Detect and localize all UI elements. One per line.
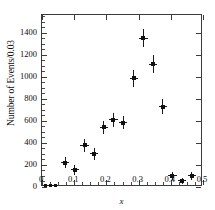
y-axis-minor-tick: [42, 110, 45, 111]
y-axis-tick: [42, 99, 47, 100]
data-point-marker: [141, 36, 145, 40]
y-axis-tick-right: [196, 165, 201, 166]
y-axis-tick: [42, 121, 47, 122]
y-axis-minor-tick: [42, 154, 45, 155]
y-axis-minor-tick: [42, 88, 45, 89]
y-axis-minor-tick: [42, 60, 45, 61]
x-axis-tick-top: [106, 15, 107, 20]
y-axis-minor-tick: [42, 126, 45, 127]
y-axis-minor-tick: [42, 66, 45, 67]
y-axis-minor-tick: [42, 27, 45, 28]
y-axis-minor-tick: [42, 132, 45, 133]
data-point-marker: [121, 121, 125, 125]
y-axis-tick-label: 200: [5, 160, 37, 169]
y-axis-minor-tick: [42, 148, 45, 149]
y-axis-minor-tick: [42, 104, 45, 105]
y-axis-minor-tick: [42, 170, 45, 171]
y-axis-tick-label: 1000: [5, 72, 37, 81]
y-axis-minor-tick: [42, 93, 45, 94]
plot-area: [41, 14, 202, 186]
y-axis-minor-tick: [42, 137, 45, 138]
data-point-marker: [151, 62, 155, 66]
y-axis-minor-tick: [42, 38, 45, 39]
y-axis-tick: [42, 187, 47, 188]
x-axis-tick-label: 0: [27, 175, 55, 184]
x-axis-tick-label: 0.3: [124, 175, 152, 184]
y-axis-tick-label: 400: [5, 138, 37, 147]
y-axis-tick-label: 1400: [5, 28, 37, 37]
y-axis-tick: [42, 55, 47, 56]
y-axis-minor-tick: [42, 44, 45, 45]
y-axis-tick-right: [196, 99, 201, 100]
x-axis-tick-label: 0.1: [59, 175, 87, 184]
data-point-marker: [73, 168, 77, 172]
y-axis-tick-right: [196, 55, 201, 56]
x-axis-tick-top: [203, 15, 204, 20]
data-point-marker: [111, 118, 115, 122]
x-axis-tick-top: [139, 15, 140, 20]
x-axis-tick-label: 0.4: [156, 175, 184, 184]
y-axis-tick-label: 600: [5, 116, 37, 125]
x-axis-tick-top: [42, 15, 43, 20]
data-point-marker: [132, 76, 136, 80]
y-axis-tick-label: 1200: [5, 50, 37, 59]
data-point-marker: [102, 125, 106, 129]
chart-figure: Number of Events/0.03 x 0200400600800100…: [0, 0, 215, 210]
y-axis-tick-right: [196, 143, 201, 144]
y-axis-minor-tick: [42, 82, 45, 83]
y-axis-tick-right: [196, 77, 201, 78]
y-axis-tick: [42, 165, 47, 166]
data-point-marker: [63, 161, 67, 165]
x-axis-tick-top: [171, 15, 172, 20]
x-axis-tick-top: [74, 15, 75, 20]
y-axis-minor-tick: [42, 159, 45, 160]
y-axis-minor-tick: [42, 71, 45, 72]
y-axis-minor-tick: [42, 22, 45, 23]
y-axis-tick: [42, 33, 47, 34]
data-point-marker: [161, 105, 165, 109]
y-axis-tick-right: [196, 187, 201, 188]
y-axis-tick-right: [196, 121, 201, 122]
y-axis-tick-label: 800: [5, 94, 37, 103]
y-axis-tick-right: [196, 33, 201, 34]
y-axis-minor-tick: [42, 115, 45, 116]
y-axis-tick: [42, 77, 47, 78]
y-axis-minor-tick: [42, 49, 45, 50]
data-point-marker: [92, 152, 96, 156]
y-axis-tick: [42, 143, 47, 144]
x-axis-tick-label: 0.5: [188, 175, 215, 184]
data-point-marker: [54, 184, 57, 187]
data-point-marker: [83, 143, 87, 147]
x-axis-title: x: [41, 196, 202, 206]
x-axis-tick-label: 0.2: [91, 175, 119, 184]
